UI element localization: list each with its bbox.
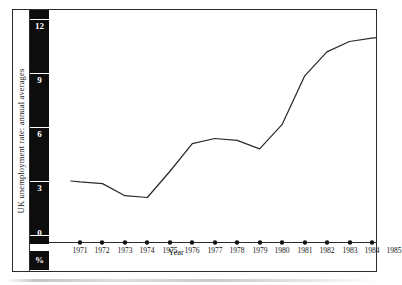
y-tick-label-3: 3 xyxy=(30,183,49,193)
x-tick-marker xyxy=(145,240,149,244)
x-tick-marker xyxy=(348,240,352,244)
y-tick-label-9: 9 xyxy=(30,75,49,85)
x-tick-marker xyxy=(370,240,374,244)
y-tick-label-12: 12 xyxy=(30,21,49,31)
y-tick-label-6: 6 xyxy=(30,129,49,139)
y-axis-scale-bar: 12 9 6 3 0 xyxy=(30,10,49,244)
y-tick-rule-3 xyxy=(30,181,49,182)
x-tick-marker xyxy=(123,240,127,244)
x-tick-marker xyxy=(235,240,239,244)
unemployment-rate-line xyxy=(71,36,377,198)
x-tick-marker xyxy=(258,240,262,244)
line-chart-svg xyxy=(49,10,377,271)
x-tick-marker xyxy=(100,240,104,244)
x-tick-marker xyxy=(280,240,284,244)
y-tick-rule-6 xyxy=(30,127,49,128)
y-tick-rule-9 xyxy=(30,73,49,74)
scan-artifact xyxy=(6,279,378,282)
plot-area xyxy=(49,10,377,271)
y-tick-label-0: 0 xyxy=(30,228,49,238)
x-tick-marker xyxy=(168,240,172,244)
y-axis-title-strip: UK unemployment rate: annual averages xyxy=(13,10,30,271)
x-tick-marker xyxy=(190,240,194,244)
x-axis-title: Year xyxy=(12,247,340,257)
x-tick-marker xyxy=(213,240,217,244)
x-tick-label-1985: 1985 xyxy=(386,246,401,255)
x-tick-marker xyxy=(78,240,82,244)
x-tick-label-1984: 1984 xyxy=(364,246,379,255)
x-tick-marker xyxy=(303,240,307,244)
x-tick-label-1983: 1983 xyxy=(342,246,357,255)
x-tick-marker xyxy=(325,240,329,244)
y-axis-title: UK unemployment rate: annual averages xyxy=(16,68,26,213)
chart-figure: UK unemployment rate: annual averages 12… xyxy=(12,9,377,272)
y-tick-rule-12 xyxy=(30,19,49,20)
